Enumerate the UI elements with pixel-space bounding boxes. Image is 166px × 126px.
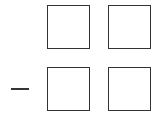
bottom-tens-digit-box[interactable] <box>47 67 90 111</box>
bottom-ones-digit-box[interactable] <box>108 67 151 111</box>
top-ones-digit-box[interactable] <box>108 5 151 49</box>
top-tens-digit-box[interactable] <box>47 5 90 49</box>
minus-sign-icon <box>11 88 29 90</box>
